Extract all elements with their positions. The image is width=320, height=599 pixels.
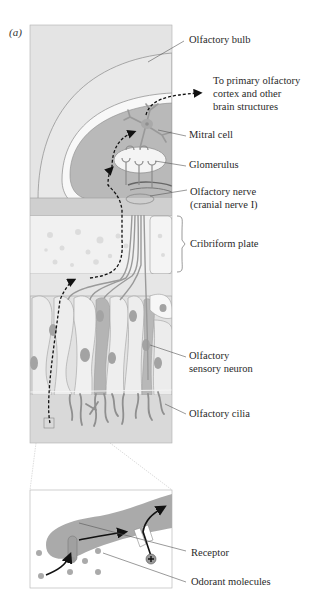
label-sensory-neuron-1: Olfactory — [189, 350, 229, 363]
label-olfactory-cilia: Olfactory cilia — [189, 408, 250, 421]
cribriform-plate — [30, 216, 172, 274]
label-olfactory-nerve-1: Olfactory nerve — [190, 186, 256, 199]
magnification-lines — [30, 443, 172, 490]
label-sensory-neuron-2: sensory neuron — [189, 363, 253, 376]
positive-ion — [146, 554, 156, 564]
label-cribriform-plate: Cribriform plate — [190, 238, 259, 251]
label-odorant-molecules: Odorant molecules — [191, 576, 271, 589]
label-olfactory-nerve-2: (cranial nerve I) — [190, 199, 258, 212]
label-receptor: Receptor — [191, 547, 229, 560]
label-to-cortex-3: brain structures — [213, 101, 278, 114]
label-to-cortex-1: To primary olfactory — [213, 75, 300, 88]
label-olfactory-bulb: Olfactory bulb — [189, 34, 251, 47]
label-glomerulus: Glomerulus — [189, 159, 239, 172]
label-to-cortex-2: cortex and other — [213, 88, 281, 101]
cilium-inset — [30, 490, 172, 588]
label-mitral-cell: Mitral cell — [189, 129, 233, 142]
top-panel — [30, 25, 172, 443]
